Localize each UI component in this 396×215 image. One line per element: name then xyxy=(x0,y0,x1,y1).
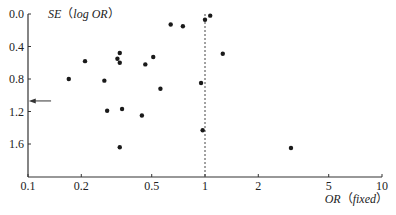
x-axis-title: OR（fixed） xyxy=(325,192,388,206)
data-point xyxy=(199,81,203,85)
data-point xyxy=(203,17,207,21)
data-point xyxy=(118,51,122,55)
data-point xyxy=(118,61,122,65)
data-point xyxy=(151,55,155,59)
x-tick-label: 10 xyxy=(376,179,388,193)
data-points xyxy=(67,13,294,150)
data-point xyxy=(102,78,106,82)
data-point xyxy=(120,107,124,111)
x-tick-label: 0.2 xyxy=(74,179,89,193)
x-tick-label: 2 xyxy=(255,179,261,193)
data-point xyxy=(143,62,147,66)
data-point xyxy=(200,128,204,132)
y-tick-label: 0.0 xyxy=(9,7,24,21)
data-point xyxy=(118,145,122,149)
x-tick-label: 0.5 xyxy=(144,179,159,193)
x-tick-label: 0.1 xyxy=(21,179,36,193)
data-point xyxy=(140,113,144,117)
y-tick-label: 1.2 xyxy=(9,105,24,119)
y-tick-label: 0.4 xyxy=(9,40,24,54)
x-axis: 0.10.20.512510 xyxy=(21,174,389,193)
data-point xyxy=(105,108,109,112)
x-tick-label: 1 xyxy=(202,179,208,193)
data-point xyxy=(115,56,119,60)
y-axis-title: SE（log OR） xyxy=(48,7,120,21)
data-point xyxy=(221,52,225,56)
funnel-plot-chart: 0.00.40.81.21.6 0.10.20.512510 SE（log OR… xyxy=(0,0,396,215)
data-point xyxy=(181,24,185,28)
x-tick-label: 5 xyxy=(326,179,332,193)
data-point xyxy=(208,13,212,17)
y-tick-label: 0.8 xyxy=(9,72,24,86)
y-axis: 0.00.40.81.21.6 xyxy=(9,7,31,177)
data-point xyxy=(158,87,162,91)
data-point xyxy=(83,59,87,63)
annotations xyxy=(29,98,51,103)
data-point xyxy=(168,22,172,26)
y-tick-label: 1.6 xyxy=(9,137,24,151)
arrow-left-icon xyxy=(29,98,51,103)
data-point xyxy=(289,146,293,150)
data-point xyxy=(67,77,71,81)
